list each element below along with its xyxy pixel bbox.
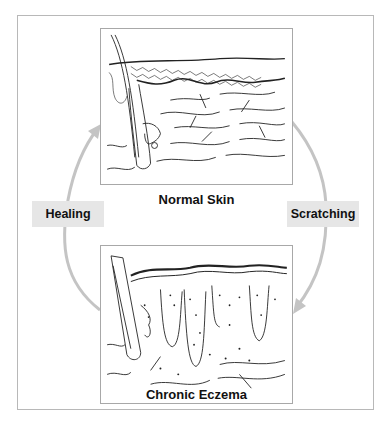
chronic-eczema-illustration: [100, 245, 293, 404]
scratching-label: Scratching: [287, 201, 359, 227]
healing-label: Healing: [32, 201, 104, 227]
normal-skin-illustration: [100, 28, 293, 185]
normal-skin-drawing: [101, 29, 292, 184]
normal-skin-label: Normal Skin: [100, 192, 293, 207]
chronic-eczema-label: Chronic Eczema: [100, 387, 293, 402]
chronic-eczema-drawing: [101, 246, 292, 403]
